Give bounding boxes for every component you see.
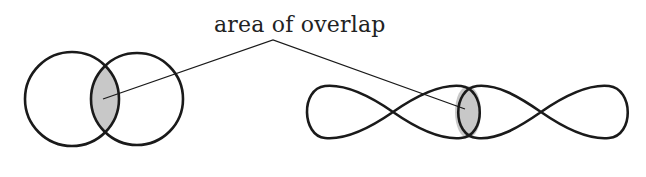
leader-line (103, 40, 465, 109)
right-figure-eight (458, 86, 628, 138)
leader-lines (103, 40, 465, 109)
left-figure-eight (307, 86, 480, 138)
overlap-diagram (0, 0, 646, 177)
figure-eights-figure (307, 86, 628, 138)
